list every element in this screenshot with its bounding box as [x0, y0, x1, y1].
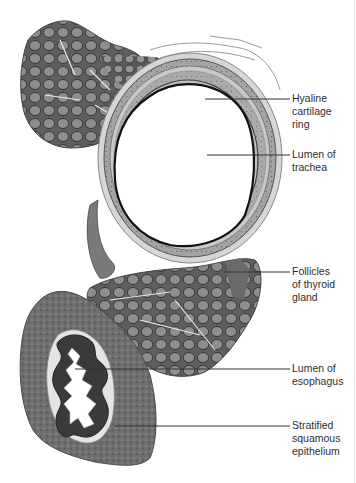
page-edge-divider [354, 0, 355, 483]
label-hyaline-cartilage-ring: Hyaline cartilage ring [292, 92, 332, 131]
label-follicles-of-thyroid-gland: Follicles of thyroid gland [292, 265, 335, 304]
tissue-illustration [0, 0, 356, 483]
label-stratified-squamous-epithelium: Stratified squamous epithelium [292, 419, 340, 458]
trachea-lumen [115, 84, 254, 246]
label-lumen-of-esophagus: Lumen of esophagus [292, 362, 343, 388]
label-lumen-of-trachea: Lumen of trachea [292, 148, 336, 174]
